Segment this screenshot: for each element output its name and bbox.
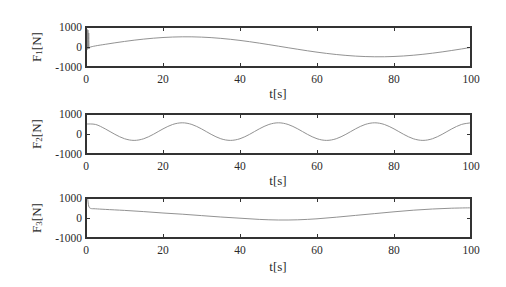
x-tick-label: 20 xyxy=(157,73,169,85)
x-axis-label: t[s] xyxy=(269,173,286,188)
x-tick-label: 60 xyxy=(311,73,323,85)
y-axis-label-base: F xyxy=(29,226,44,233)
y-tick-label: 1000 xyxy=(59,192,82,204)
subplot-f2: 020406080100-100001000 F2[N] t[s] xyxy=(29,108,480,188)
x-axis-label: t[s] xyxy=(269,259,286,274)
x-tick-label: 40 xyxy=(234,244,246,256)
x-tick-label: 80 xyxy=(388,160,400,172)
x-tick-label: 40 xyxy=(234,160,246,172)
x-tick-label: 60 xyxy=(311,244,323,256)
y-tick-label: -1000 xyxy=(55,61,82,73)
x-tick-label: 20 xyxy=(157,160,169,172)
y-tick-label: 1000 xyxy=(59,21,82,33)
y-axis-label-unit: [N] xyxy=(29,203,44,221)
y-axis-label: F2[N] xyxy=(29,119,45,149)
y-tick-label: -1000 xyxy=(55,232,82,244)
curve-f3 xyxy=(86,198,471,220)
y-tick-label: 0 xyxy=(76,128,82,140)
y-tick-label: 1000 xyxy=(59,108,82,120)
axes-box xyxy=(86,27,471,67)
x-tick-label: 100 xyxy=(462,244,480,256)
x-tick-label: 60 xyxy=(311,160,323,172)
x-tick-label: 100 xyxy=(462,160,480,172)
subplot-f3: 020406080100-100001000 F3[N] t[s] xyxy=(29,192,480,274)
y-axis-label: F3[N] xyxy=(29,203,45,233)
y-tick-label: 0 xyxy=(76,212,82,224)
x-tick-label: 80 xyxy=(388,244,400,256)
y-axis-label: F1[N] xyxy=(29,32,45,62)
tick-labels: 020406080100-100001000 xyxy=(55,192,480,256)
y-axis-label-base: F xyxy=(29,142,44,149)
x-tick-label: 20 xyxy=(157,244,169,256)
tick-marks xyxy=(86,27,471,67)
x-tick-label: 40 xyxy=(234,73,246,85)
curve-f1 xyxy=(86,29,471,57)
x-axis-label: t[s] xyxy=(269,86,286,101)
x-tick-label: 0 xyxy=(83,73,89,85)
y-axis-label-unit: [N] xyxy=(29,32,44,50)
tick-marks xyxy=(86,198,471,238)
axes-box xyxy=(86,114,471,154)
curve-f2 xyxy=(86,123,471,141)
x-tick-label: 0 xyxy=(83,160,89,172)
figure: 020406080100-100001000 F1[N] t[s] 020406… xyxy=(0,0,506,287)
x-tick-label: 100 xyxy=(462,73,480,85)
x-tick-label: 0 xyxy=(83,244,89,256)
y-axis-label-unit: [N] xyxy=(29,119,44,137)
tick-labels: 020406080100-100001000 xyxy=(55,21,480,85)
subplot-f1: 020406080100-100001000 F1[N] t[s] xyxy=(29,21,480,101)
tick-marks xyxy=(86,114,471,154)
y-tick-label: 0 xyxy=(76,41,82,53)
y-axis-label-base: F xyxy=(29,55,44,62)
y-tick-label: -1000 xyxy=(55,148,82,160)
axes-box xyxy=(86,198,471,238)
x-tick-label: 80 xyxy=(388,73,400,85)
